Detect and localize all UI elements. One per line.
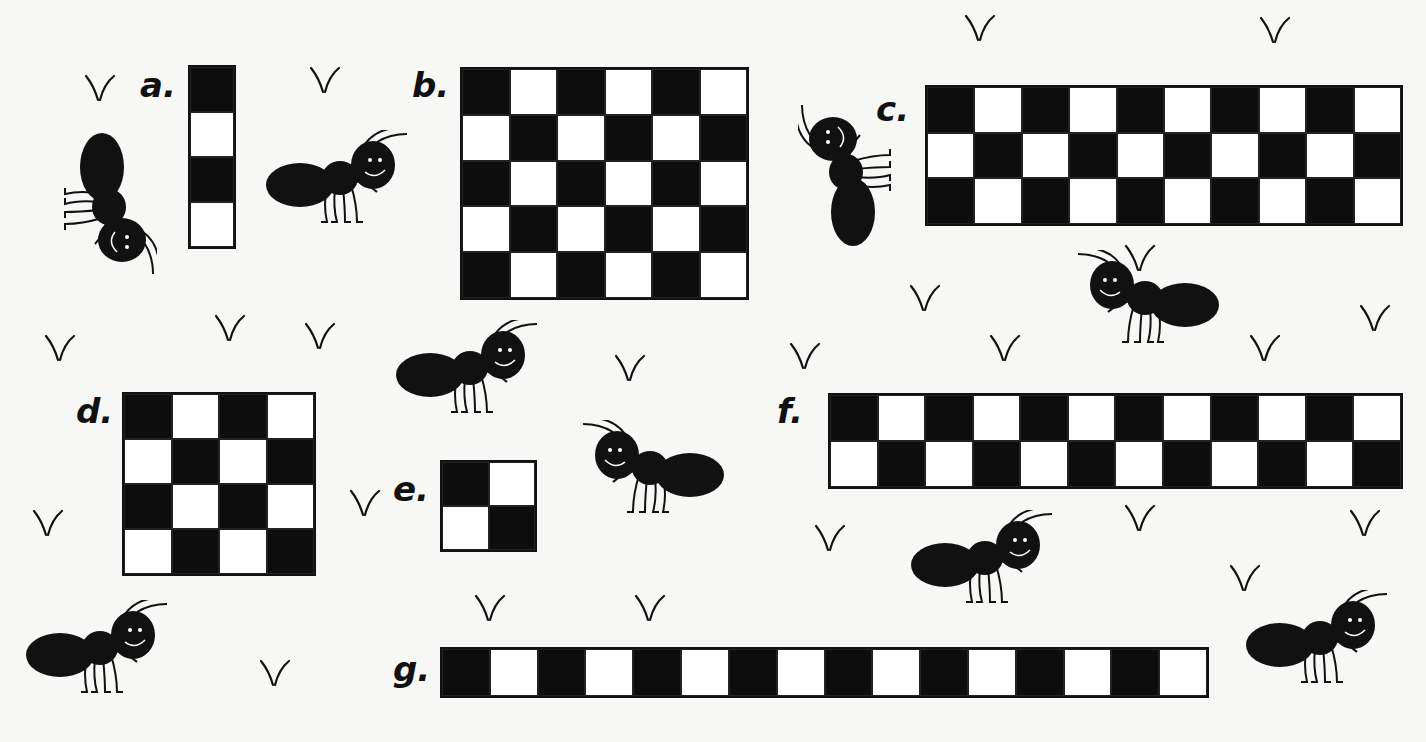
ant-icon	[395, 320, 545, 424]
grid-cell	[1069, 133, 1116, 179]
grid-cell	[557, 252, 605, 298]
grid-cell	[219, 439, 267, 484]
puzzle-label: g.	[393, 652, 430, 686]
grass-tuft-icon	[80, 70, 120, 108]
grid-cell	[1259, 178, 1306, 224]
grid-cell	[1111, 649, 1159, 696]
checkerboard-grid	[440, 460, 537, 552]
grid-cell	[652, 69, 700, 115]
grid-cell	[974, 87, 1021, 133]
grid-cell	[729, 649, 777, 696]
grid-cell	[920, 649, 968, 696]
grid-cell	[1020, 441, 1068, 487]
grid-cell	[605, 206, 653, 252]
checkerboard-grid	[122, 392, 316, 576]
grid-cell	[1117, 178, 1164, 224]
grid-cell	[219, 529, 267, 574]
grid-cell	[267, 529, 315, 574]
grid-cell	[974, 133, 1021, 179]
puzzle-label: a.	[140, 68, 176, 102]
grid-cell	[927, 133, 974, 179]
grid-cell	[585, 649, 633, 696]
grid-cell	[124, 394, 172, 439]
grid-cell	[1259, 133, 1306, 179]
puzzle-label: e.	[393, 472, 429, 506]
grass-tuft-icon	[1345, 505, 1385, 543]
grid-cell	[1211, 441, 1259, 487]
grass-tuft-icon	[345, 485, 385, 523]
grid-cell	[172, 484, 220, 529]
grid-cell	[190, 157, 234, 202]
grid-cell	[1211, 87, 1258, 133]
grid-cell	[1353, 441, 1401, 487]
grid-cell	[878, 441, 926, 487]
grid-cell	[830, 441, 878, 487]
grid-cell	[1022, 87, 1069, 133]
grid-cell	[462, 69, 510, 115]
grid-cell	[219, 484, 267, 529]
grid-cell	[1164, 87, 1211, 133]
grid-cell	[633, 649, 681, 696]
grid-cell	[442, 462, 489, 506]
grid-cell	[267, 484, 315, 529]
grid-cell	[1306, 395, 1354, 441]
grass-tuft-icon	[300, 318, 340, 356]
grid-cell	[219, 394, 267, 439]
grass-tuft-icon	[610, 350, 650, 388]
grid-cell	[974, 178, 1021, 224]
grid-cell	[172, 529, 220, 574]
grid-cell	[652, 252, 700, 298]
grid-cell	[1159, 649, 1207, 696]
grid-cell	[605, 252, 653, 298]
ant-icon	[265, 130, 415, 234]
grid-cell	[1259, 87, 1306, 133]
puzzle-label: d.	[76, 394, 113, 428]
grid-cell	[777, 649, 825, 696]
grid-cell	[462, 115, 510, 161]
ant-icon	[25, 600, 175, 704]
grid-cell	[968, 649, 1016, 696]
ant-icon	[53, 132, 157, 282]
grass-tuft-icon	[985, 330, 1025, 368]
grid-cell	[1068, 395, 1116, 441]
grid-cell	[700, 115, 748, 161]
grass-tuft-icon	[1225, 560, 1265, 598]
grid-cell	[510, 115, 558, 161]
grid-cell	[489, 462, 536, 506]
grid-cell	[1354, 133, 1401, 179]
grid-cell	[605, 115, 653, 161]
grass-tuft-icon	[470, 590, 510, 628]
grass-tuft-icon	[1255, 12, 1295, 50]
grass-tuft-icon	[1355, 300, 1395, 338]
grid-cell	[1022, 178, 1069, 224]
grass-tuft-icon	[785, 338, 825, 376]
grid-cell	[605, 69, 653, 115]
grid-cell	[172, 394, 220, 439]
grid-cell	[510, 161, 558, 207]
grid-cell	[700, 69, 748, 115]
puzzle-label: f.	[777, 394, 803, 428]
grid-cell	[442, 506, 489, 550]
checkerboard-grid	[925, 85, 1403, 226]
grid-cell	[1258, 441, 1306, 487]
grid-cell	[1069, 87, 1116, 133]
ant-icon	[1245, 590, 1395, 694]
grid-cell	[1164, 133, 1211, 179]
checkerboard-grid	[828, 393, 1403, 489]
grid-cell	[652, 115, 700, 161]
grid-cell	[700, 161, 748, 207]
grid-cell	[172, 439, 220, 484]
grid-cell	[605, 161, 653, 207]
grass-tuft-icon	[210, 310, 250, 348]
grid-cell	[1163, 441, 1211, 487]
grid-cell	[489, 506, 536, 550]
grid-cell	[927, 178, 974, 224]
puzzle-label: c.	[876, 92, 909, 126]
grid-cell	[1211, 178, 1258, 224]
grid-cell	[1354, 178, 1401, 224]
grass-tuft-icon	[1120, 500, 1160, 538]
grid-cell	[1306, 133, 1353, 179]
grid-cell	[462, 161, 510, 207]
grid-cell	[557, 206, 605, 252]
grid-cell	[927, 87, 974, 133]
